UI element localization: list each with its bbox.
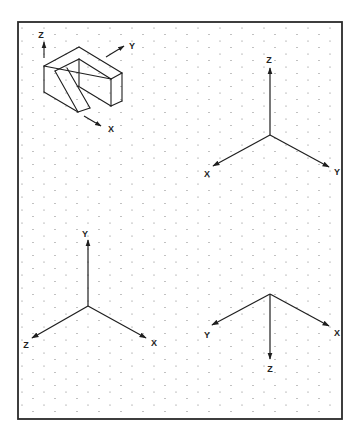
- grid-dot: [285, 352, 286, 353]
- grid-dot: [65, 339, 66, 340]
- grid-dot: [197, 170, 198, 171]
- grid-dot: [197, 378, 198, 379]
- grid-dot: [142, 255, 143, 256]
- grid-dot: [208, 216, 209, 217]
- grid-dot: [142, 86, 143, 87]
- grid-dot: [87, 53, 88, 54]
- grid-dot: [230, 112, 231, 113]
- grid-dot: [252, 398, 253, 399]
- grid-dot: [208, 281, 209, 282]
- grid-dot: [153, 53, 154, 54]
- grid-dot: [153, 287, 154, 288]
- grid-dot: [285, 287, 286, 288]
- grid-dot: [241, 131, 242, 132]
- grid-dot: [98, 372, 99, 373]
- grid-dot: [153, 274, 154, 275]
- axis-x-label: X: [151, 338, 157, 348]
- grid-dot: [197, 196, 198, 197]
- grid-dot: [131, 183, 132, 184]
- grid-dot: [175, 131, 176, 132]
- grid-dot: [65, 170, 66, 171]
- grid-dot: [175, 261, 176, 262]
- grid-dot: [21, 118, 22, 119]
- grid-dot: [274, 307, 275, 308]
- grid-dot: [263, 300, 264, 301]
- grid-dot: [43, 378, 44, 379]
- grid-dot: [208, 346, 209, 347]
- grid-dot: [142, 346, 143, 347]
- grid-dot: [109, 261, 110, 262]
- grid-dot: [329, 326, 330, 327]
- grid-dot: [175, 313, 176, 314]
- grid-dot: [263, 196, 264, 197]
- dot-grid: [21, 27, 330, 412]
- grid-dot: [153, 248, 154, 249]
- grid-dot: [65, 274, 66, 275]
- grid-dot: [230, 164, 231, 165]
- grid-dot: [285, 274, 286, 275]
- grid-dot: [296, 359, 297, 360]
- triad-bottom-left: YZX: [23, 229, 157, 350]
- grid-dot: [87, 391, 88, 392]
- grid-dot: [109, 274, 110, 275]
- grid-dot: [164, 151, 165, 152]
- grid-dot: [98, 34, 99, 35]
- axis-z-label: Z: [266, 55, 272, 65]
- grid-dot: [219, 92, 220, 93]
- grid-dot: [219, 170, 220, 171]
- grid-dot: [131, 313, 132, 314]
- grid-dot: [153, 313, 154, 314]
- grid-dot: [142, 125, 143, 126]
- grid-dot: [219, 287, 220, 288]
- grid-dot: [263, 235, 264, 236]
- grid-dot: [329, 209, 330, 210]
- grid-dot: [219, 118, 220, 119]
- grid-dot: [109, 339, 110, 340]
- grid-dot: [87, 339, 88, 340]
- grid-dot: [241, 209, 242, 210]
- grid-dot: [21, 261, 22, 262]
- grid-dot: [241, 352, 242, 353]
- grid-dot: [230, 177, 231, 178]
- grid-dot: [153, 235, 154, 236]
- grid-dot: [230, 242, 231, 243]
- grid-dot: [54, 307, 55, 308]
- grid-dot: [263, 339, 264, 340]
- grid-dot: [263, 170, 264, 171]
- grid-dot: [142, 229, 143, 230]
- grid-dot: [32, 99, 33, 100]
- grid-dot: [175, 170, 176, 171]
- grid-dot: [76, 268, 77, 269]
- grid-dot: [120, 385, 121, 386]
- grid-dot: [197, 222, 198, 223]
- grid-dot: [241, 40, 242, 41]
- grid-dot: [32, 73, 33, 74]
- grid-dot: [252, 164, 253, 165]
- grid-dot: [21, 40, 22, 41]
- grid-dot: [230, 411, 231, 412]
- grid-dot: [109, 404, 110, 405]
- grid-dot: [285, 118, 286, 119]
- grid-dot: [21, 404, 22, 405]
- grid-dot: [164, 346, 165, 347]
- grid-dot: [76, 203, 77, 204]
- grid-dot: [274, 281, 275, 282]
- grid-dot: [142, 320, 143, 321]
- grid-dot: [219, 79, 220, 80]
- grid-dot: [109, 196, 110, 197]
- grid-dot: [285, 300, 286, 301]
- grid-dot: [76, 372, 77, 373]
- grid-dot: [153, 131, 154, 132]
- grid-dot: [329, 157, 330, 158]
- grid-dot: [175, 248, 176, 249]
- grid-dot: [98, 242, 99, 243]
- grid-dot: [43, 196, 44, 197]
- grid-dot: [164, 99, 165, 100]
- grid-dot: [120, 372, 121, 373]
- grid-dot: [252, 255, 253, 256]
- grid-dot: [318, 359, 319, 360]
- grid-dot: [329, 313, 330, 314]
- grid-dot: [197, 339, 198, 340]
- grid-dot: [98, 177, 99, 178]
- grid-dot: [329, 261, 330, 262]
